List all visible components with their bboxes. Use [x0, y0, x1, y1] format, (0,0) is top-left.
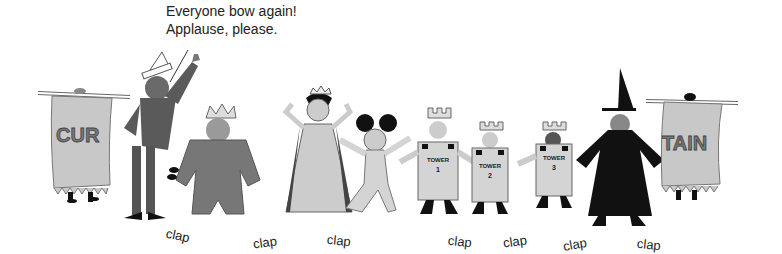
clap-label: clap: [447, 233, 472, 250]
svg-text:2: 2: [488, 172, 492, 179]
clap-label: clap: [636, 236, 661, 253]
banner-right: TAIN: [646, 93, 738, 200]
figure-witch: [576, 68, 664, 226]
banner-right-text: TAIN: [662, 132, 707, 154]
figure-director: [124, 52, 200, 220]
figure-queen: [286, 86, 352, 212]
clap-label: clap: [326, 232, 351, 249]
svg-text:1: 1: [436, 166, 440, 173]
banner-left-text: CUR: [56, 124, 100, 146]
figure-mouse-kid: [340, 114, 410, 212]
svg-text:TOWER: TOWER: [427, 157, 450, 163]
banner-left: CUR: [38, 88, 130, 203]
svg-text:TOWER: TOWER: [543, 155, 566, 161]
figure-tower-3: TOWER 3: [518, 122, 572, 208]
svg-text:TOWER: TOWER: [479, 163, 502, 169]
figure-tower-2: TOWER 2: [472, 122, 508, 214]
figure-king: [167, 104, 260, 214]
svg-text:3: 3: [552, 164, 556, 171]
figure-tower-1: TOWER 1: [400, 108, 474, 214]
